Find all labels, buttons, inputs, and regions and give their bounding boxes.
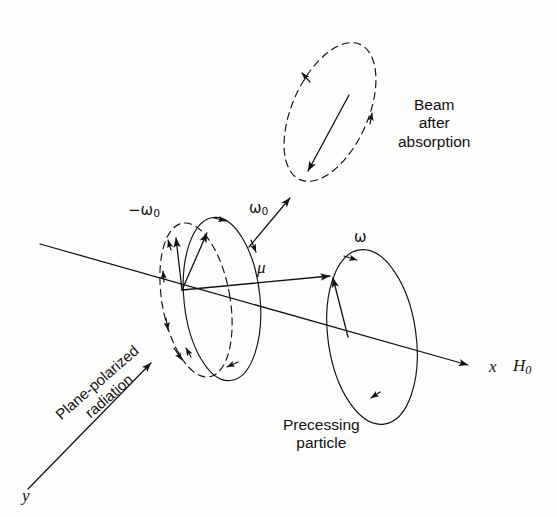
- right-solid-ellipse: [316, 244, 428, 431]
- main-axis-line: [40, 244, 468, 365]
- beam-label-line-1: Beam: [398, 96, 470, 114]
- top-dashed-ellipse: [265, 29, 395, 195]
- omega-zero-positive-symbol: ω: [249, 199, 262, 217]
- omega-zero-positive-label: ω0: [249, 200, 268, 219]
- beam-label-line-3: absorption: [398, 133, 470, 151]
- axis-h0-symbol: H: [513, 356, 525, 375]
- precessing-particle-label: Precessing particle: [283, 416, 360, 453]
- dashed-ellipse-arrow-upper-left: [163, 271, 164, 282]
- diagram-canvas: [0, 0, 557, 517]
- solid-ellipse-arrow-bottom: [227, 362, 238, 367]
- dashed-ellipse-arrow-top: [168, 240, 171, 250]
- dashed-ellipse-arrow-lower-left: [166, 318, 168, 330]
- axis-h0-label: H0: [513, 356, 531, 377]
- left-solid-ellipse: [176, 213, 269, 384]
- omega-zero-negative-symbol: −ω: [128, 201, 153, 219]
- omega-zero-positive-subscript: 0: [262, 205, 269, 218]
- beam-label-line-2: after: [398, 114, 470, 132]
- axis-h0-subscript: 0: [525, 363, 531, 377]
- right-ellipse-arrow-bottom: [371, 392, 380, 398]
- top-ellipse-radius-vector: [308, 95, 349, 171]
- right-ellipse-arrow-top: [344, 256, 357, 260]
- mu-label: μ: [257, 258, 266, 278]
- precessing-label-line-1: Precessing: [283, 416, 360, 434]
- axis-y-label: y: [22, 486, 30, 506]
- top-ellipse-arrow-right: [370, 113, 372, 124]
- mu-vector-arrow: [182, 276, 330, 290]
- axis-x-label: x: [489, 357, 497, 377]
- right-particle-vector: [333, 278, 348, 337]
- omega-label: ω: [354, 229, 367, 247]
- omega-zero-negative-label: −ω0: [128, 202, 160, 221]
- omega-zero-negative-subscript: 0: [153, 207, 160, 220]
- physics-diagram-figure: Beam after absorption Precessing particl…: [0, 0, 557, 517]
- beam-after-absorption-label: Beam after absorption: [398, 96, 470, 151]
- left-dashed-ellipse: [149, 217, 243, 382]
- left-vector-rotating: [182, 233, 207, 290]
- dashed-ellipse-arrow-bottom: [174, 348, 182, 360]
- solid-ellipse-arrow-lower-left: [186, 348, 191, 357]
- precessing-label-line-2: particle: [283, 434, 360, 452]
